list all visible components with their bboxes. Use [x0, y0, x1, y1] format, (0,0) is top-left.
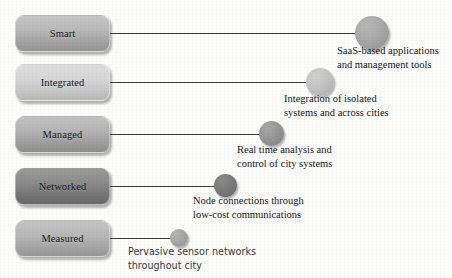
caption-integrated-line2: systems and across cities	[284, 106, 389, 120]
caption-integrated: Integration of isolated systems and acro…	[284, 92, 389, 119]
caption-managed: Real time analysis and control of city s…	[237, 143, 332, 170]
node-box-label-measured: Measured	[41, 233, 83, 244]
connector-line-managed	[110, 134, 267, 135]
node-box-smart[interactable]: Smart	[15, 15, 110, 52]
caption-managed-line2: control of city systems	[237, 157, 332, 171]
caption-smart: SaaS-based applications and management t…	[337, 44, 439, 71]
caption-smart-line2: and management tools	[337, 58, 439, 72]
connector-line-smart	[110, 33, 372, 34]
node-box-measured[interactable]: Measured	[15, 220, 110, 257]
node-box-managed[interactable]: Managed	[15, 116, 110, 153]
node-box-label-networked: Networked	[39, 181, 87, 192]
caption-measured: Pervasive sensor networks throughout cit…	[128, 245, 256, 273]
diagram-canvas: Smart SaaS-based applications and manage…	[0, 0, 452, 278]
caption-managed-line1: Real time analysis and	[237, 143, 332, 157]
connector-line-integrated	[110, 82, 315, 83]
node-box-label-managed: Managed	[43, 129, 83, 140]
node-box-label-integrated: Integrated	[41, 77, 85, 88]
caption-measured-line2: throughout city	[128, 259, 256, 273]
caption-measured-line1: Pervasive sensor networks	[128, 245, 256, 259]
node-box-label-smart: Smart	[50, 28, 76, 39]
caption-integrated-line1: Integration of isolated	[284, 92, 389, 106]
caption-smart-line1: SaaS-based applications	[337, 44, 439, 58]
node-box-integrated[interactable]: Integrated	[15, 64, 110, 101]
connector-line-measured	[110, 238, 175, 239]
node-box-networked[interactable]: Networked	[15, 168, 110, 205]
caption-networked: Node connections through low-cost commun…	[193, 194, 304, 221]
caption-networked-line2: low-cost communications	[193, 208, 304, 222]
caption-networked-line1: Node connections through	[193, 194, 304, 208]
connector-line-networked	[110, 186, 222, 187]
